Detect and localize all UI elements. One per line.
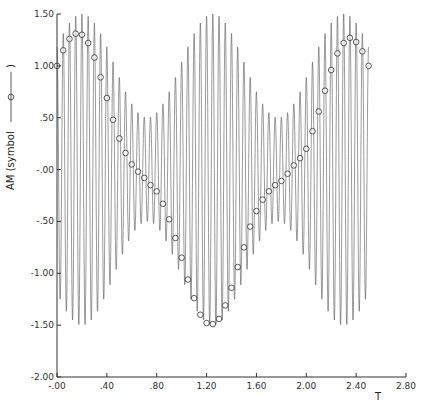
symbol-point [73, 31, 79, 37]
symbol-point [272, 182, 278, 188]
symbol-point [148, 182, 154, 188]
am-chart: -.00.40.801.201.602.002.402.80 1.501.00.… [0, 0, 424, 406]
symbol-point [341, 40, 347, 46]
x-tick-label: -.00 [48, 381, 66, 391]
symbol-point [85, 40, 91, 46]
x-tick-label: 2.00 [296, 381, 316, 391]
y-tick-label: -.50 [36, 216, 54, 226]
symbol-point [191, 295, 197, 301]
symbol-point [216, 316, 222, 322]
symbol-point [247, 224, 253, 230]
y-axis-title-close-paren: ) [5, 64, 16, 68]
symbol-point [279, 178, 285, 184]
y-tick-label: -1.50 [31, 320, 55, 330]
symbol-point [328, 67, 334, 73]
symbol-point [166, 217, 172, 223]
symbol-point [322, 88, 328, 94]
symbol-point [117, 136, 123, 142]
symbol-point [229, 285, 235, 291]
x-tick-label: 1.20 [197, 381, 217, 391]
symbol-point [260, 197, 266, 203]
symbol-point [310, 128, 316, 134]
symbol-point [353, 39, 359, 45]
symbol-point [222, 303, 228, 309]
y-tick-label: -1.00 [31, 268, 55, 278]
symbol-point [79, 32, 85, 38]
symbol-point [154, 189, 160, 195]
symbol-point [135, 169, 141, 175]
symbol-point [160, 201, 166, 207]
symbol-point [360, 49, 366, 55]
y-tick-label: 1.00 [34, 61, 54, 71]
y-axis-title: AM (symbol ) [5, 64, 16, 190]
symbol-point [241, 245, 247, 251]
plot-area [54, 14, 371, 327]
symbol-point [254, 208, 260, 214]
symbol-point [198, 312, 204, 318]
symbol-point [104, 95, 110, 101]
symbol-point [285, 171, 291, 177]
symbol-point [110, 117, 116, 123]
symbol-point [297, 155, 303, 161]
x-ticks: -.00.40.801.201.602.002.402.80 [48, 373, 416, 391]
symbol-point [60, 48, 66, 54]
symbol-point [204, 320, 210, 326]
x-axis-title: T [374, 391, 382, 402]
x-tick-label: .80 [150, 381, 165, 391]
symbol-point [92, 55, 98, 61]
y-tick-label: -.00 [36, 165, 54, 175]
symbol-point [185, 277, 191, 283]
symbol-point [129, 162, 135, 168]
symbol-point [179, 255, 185, 261]
symbol-point [291, 163, 297, 169]
y-tick-label: -2.00 [31, 372, 55, 382]
symbol-point [303, 146, 309, 152]
symbol-point [347, 35, 353, 41]
x-tick-label: .40 [100, 381, 115, 391]
symbol-point [67, 36, 73, 42]
symbol-point [335, 51, 341, 57]
symbol-point [123, 150, 129, 156]
symbol-point [316, 109, 322, 115]
y-tick-label: .50 [40, 113, 55, 123]
symbol-point [266, 189, 272, 195]
y-axis-title-text: AM (symbol [5, 131, 16, 190]
symbol-point [210, 321, 216, 327]
y-tick-label: 1.50 [34, 9, 54, 19]
symbol-point [141, 175, 147, 181]
symbol-point [173, 235, 179, 241]
symbol-point [235, 264, 241, 270]
am-waveform-line [57, 14, 369, 325]
x-tick-label: 1.60 [246, 381, 266, 391]
x-tick-label: 2.80 [396, 381, 416, 391]
x-tick-label: 2.40 [346, 381, 366, 391]
symbol-point [366, 63, 372, 69]
symbol-point [98, 74, 104, 80]
